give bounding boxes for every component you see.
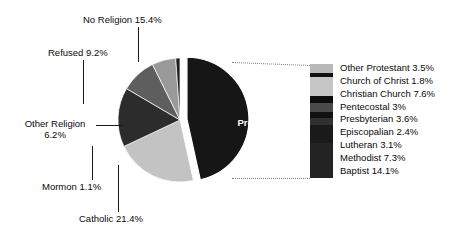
legend-row: Methodist 7.3% — [340, 152, 468, 165]
leader-line-catholic — [118, 165, 119, 212]
legend-row: Church of Christ 1.8% — [340, 75, 468, 88]
breakout-bar-segment — [310, 103, 333, 112]
label-mormon: Mormon 1.1% — [42, 181, 101, 192]
label-other-religion-line2: 6.2% — [14, 129, 96, 140]
legend-row: Episcopalian 2.4% — [340, 126, 468, 139]
pie-chart-figure: Protestant 46.4% No Religion 15.4% Refus… — [0, 0, 469, 236]
protestant-label-value: 46.4% — [229, 129, 293, 141]
breakout-leader-bottom — [232, 178, 310, 179]
protestant-slice-label: Protestant 46.4% — [229, 117, 293, 140]
label-other-religion: Other Religion 6.2% — [14, 118, 96, 140]
label-catholic: Catholic 21.4% — [79, 213, 143, 224]
legend-row: Other Protestant 3.5% — [340, 62, 468, 75]
leader-line-no-religion — [138, 27, 139, 62]
pie-chart — [120, 54, 245, 186]
leader-line-mormon — [92, 146, 93, 180]
breakout-bar-segment — [310, 77, 333, 96]
leader-line-other-religion — [96, 125, 123, 126]
protestant-label-name: Protestant — [229, 117, 293, 129]
leader-line-refused — [83, 60, 84, 104]
label-refused: Refused 9.2% — [48, 47, 108, 58]
label-other-religion-line1: Other Religion — [14, 118, 96, 129]
label-no-religion: No Religion 15.4% — [83, 14, 162, 25]
legend-row: Presbyterian 3.6% — [340, 113, 468, 126]
breakout-bar-segment — [310, 96, 333, 103]
breakout-bar-segment — [310, 64, 333, 73]
breakout-bar-segment — [310, 125, 333, 143]
breakout-bar-segment — [310, 118, 333, 126]
legend-row: Pentecostal 3% — [340, 101, 468, 114]
protestant-breakout-bar — [310, 64, 333, 178]
legend-row: Christian Church 7.6% — [340, 88, 468, 101]
legend-row: Baptist 14.1% — [340, 165, 468, 178]
breakout-legend: Other Protestant 3.5%Church of Christ 1.… — [340, 62, 468, 178]
legend-row: Lutheran 3.1% — [340, 139, 468, 152]
pie-svg — [120, 54, 245, 186]
breakout-bar-segment — [310, 143, 333, 178]
